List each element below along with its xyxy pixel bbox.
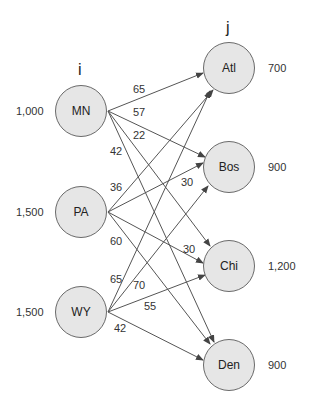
node-label: Atl [222, 61, 236, 75]
node-label: MN [72, 104, 91, 118]
edge-mn-atl [108, 73, 203, 111]
edge-pa-atl [108, 90, 213, 212]
source-node-wy[interactable]: WY [55, 286, 107, 338]
dest-node-bos[interactable]: Bos [203, 141, 255, 193]
dest-node-chi[interactable]: Chi [203, 240, 255, 292]
transportation-network-diagram: i j MN PA WY 1,000 1,500 1,500 Atl Bos C… [0, 0, 310, 410]
node-label: WY [71, 305, 90, 319]
cost-wy-den: 42 [114, 323, 126, 334]
edge-wy-den [108, 312, 203, 360]
edge-mn-chi [108, 111, 210, 246]
cost-pa-chi: 30 [183, 244, 195, 255]
edge-pa-chi [108, 212, 203, 263]
demand-chi: 1,200 [268, 261, 296, 272]
supply-mn: 1,000 [16, 106, 44, 117]
node-label: PA [73, 205, 88, 219]
dest-node-den[interactable]: Den [203, 339, 255, 391]
cost-mn-bos: 57 [133, 107, 145, 118]
demand-den: 900 [268, 360, 286, 371]
cost-wy-atl: 65 [110, 274, 122, 285]
cost-pa-atl: 36 [110, 182, 122, 193]
edges-layer [0, 0, 310, 410]
supply-wy: 1,500 [16, 307, 44, 318]
source-node-pa[interactable]: PA [55, 186, 107, 238]
edge-mn-den [108, 111, 214, 342]
dest-node-atl[interactable]: Atl [203, 42, 255, 94]
destinations-header: j [226, 20, 230, 36]
sources-header: i [78, 62, 82, 78]
source-node-mn[interactable]: MN [55, 85, 107, 137]
demand-bos: 900 [268, 162, 286, 173]
cost-mn-atl: 65 [133, 84, 145, 95]
cost-wy-chi: 55 [144, 301, 156, 312]
node-label: Chi [220, 259, 238, 273]
cost-mn-den: 42 [110, 146, 122, 157]
supply-pa: 1,500 [16, 207, 44, 218]
node-label: Den [218, 358, 240, 372]
cost-mn-chi: 22 [133, 130, 145, 141]
node-label: Bos [219, 160, 240, 174]
cost-pa-bos: 30 [181, 177, 193, 188]
cost-wy-bos: 70 [133, 280, 145, 291]
demand-atl: 700 [268, 63, 286, 74]
cost-pa-den: 60 [110, 236, 122, 247]
